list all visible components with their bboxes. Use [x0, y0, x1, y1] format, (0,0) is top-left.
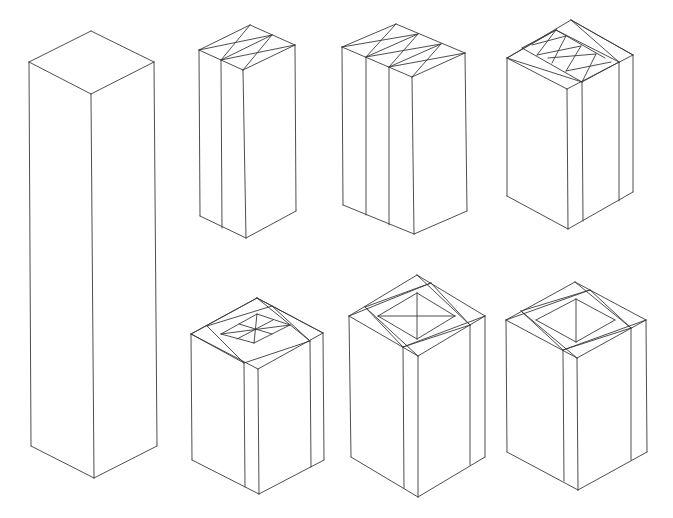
top-edge — [243, 45, 295, 70]
box-frame-pyramid — [349, 275, 485, 497]
top-pattern-line — [342, 34, 418, 47]
bottom-edge — [343, 205, 414, 234]
top-edge — [577, 320, 646, 358]
vertical-edge — [199, 50, 200, 216]
top-pattern-line — [191, 298, 257, 334]
top-pattern-line — [417, 275, 470, 325]
vertical-edge — [577, 358, 578, 490]
top-edge — [417, 275, 485, 316]
bottom-edge — [31, 446, 94, 478]
bottom-edge — [507, 452, 578, 490]
vertical-edge — [243, 70, 246, 238]
top-pattern-line — [403, 316, 485, 347]
top-pattern-line — [389, 44, 441, 67]
top-pattern-line — [506, 290, 590, 320]
top-pattern-line — [522, 48, 582, 82]
bottom-edge — [259, 460, 324, 494]
top-edge — [507, 58, 567, 89]
top-pattern-line — [365, 307, 418, 356]
face-division-line — [244, 363, 245, 487]
top-pattern-line — [571, 20, 633, 55]
top-edge — [412, 53, 465, 77]
top-pattern-line — [412, 44, 441, 77]
box-frame-three — [507, 20, 633, 229]
vertical-edge — [323, 333, 324, 460]
top-edge — [342, 24, 396, 47]
top-pattern-line — [537, 46, 581, 55]
top-pattern-line — [244, 341, 310, 363]
vertical-edge — [412, 77, 414, 234]
vertical-edge — [295, 45, 296, 211]
bottom-edge — [246, 211, 296, 238]
bottom-edge — [94, 446, 157, 478]
top-pattern-line — [349, 283, 431, 316]
top-edge — [91, 62, 154, 94]
top-edge — [91, 31, 154, 62]
face-division-line — [310, 341, 311, 467]
bottom-edge — [351, 457, 418, 497]
bottom-edge — [578, 452, 647, 490]
top-pattern-line — [366, 34, 418, 57]
top-pattern-line — [403, 325, 470, 347]
top-pattern-line — [257, 298, 310, 341]
face-division-line — [403, 347, 404, 488]
top-edge — [349, 316, 418, 356]
bottom-edge — [418, 457, 485, 497]
face-division-line — [563, 350, 564, 481]
vertical-edge — [646, 320, 647, 452]
top-pattern-line — [566, 46, 581, 71]
vertical-edge — [191, 334, 192, 460]
top-pattern-line — [417, 293, 455, 316]
top-pattern-line — [378, 316, 417, 339]
bottom-edge — [568, 192, 633, 229]
bottom-edge — [507, 196, 568, 229]
top-edge — [199, 25, 250, 50]
vertical-edge — [506, 320, 507, 452]
top-edge — [342, 47, 412, 77]
face-division-line — [221, 60, 222, 228]
top-edge — [506, 282, 575, 320]
box-three-strip — [342, 24, 467, 234]
face-division-line — [582, 82, 583, 221]
top-pattern-line — [221, 35, 272, 60]
top-pattern-line — [366, 24, 396, 57]
top-edge — [349, 275, 417, 316]
bottom-edge — [200, 216, 246, 238]
top-pattern-line — [582, 62, 619, 82]
vertical-edge — [567, 89, 568, 229]
top-pattern-line — [563, 320, 646, 350]
vertical-edge — [91, 94, 94, 478]
vertical-edge — [154, 62, 157, 446]
top-edge — [506, 320, 577, 358]
box-frame-open — [506, 282, 647, 490]
top-pattern-line — [257, 314, 290, 325]
top-edge — [575, 282, 646, 320]
bottom-edge — [192, 460, 259, 494]
vertical-edge — [349, 316, 351, 457]
vertical-edge — [29, 62, 31, 446]
isometric-drawing — [0, 0, 673, 518]
bottom-edge — [414, 211, 467, 234]
box-two-strip — [199, 25, 296, 238]
vertical-edge — [342, 47, 343, 205]
top-edge — [418, 316, 485, 356]
top-edge — [29, 62, 91, 94]
top-pattern-line — [521, 311, 577, 358]
box-frame-four — [191, 298, 324, 494]
box-tall — [29, 31, 157, 478]
top-edge — [29, 31, 91, 62]
vertical-edge — [258, 369, 259, 494]
top-pattern-line — [417, 316, 455, 339]
top-pattern-line — [575, 282, 631, 328]
top-pattern-line — [556, 30, 605, 58]
top-edge — [258, 333, 323, 369]
vertical-edge — [465, 53, 467, 211]
